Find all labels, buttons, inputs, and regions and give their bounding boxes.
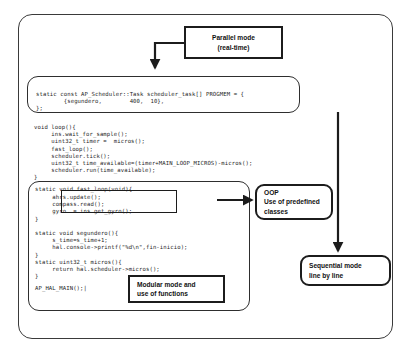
oop-line-3: classes [257,207,331,217]
oop-line-2: Use of predefined [257,197,331,207]
sequential-mode-line-1: Sequential mode [302,261,389,271]
parallel-mode-line-1: Parallel mode [186,33,281,43]
parallel-mode-line-2: (real-time) [186,43,281,53]
sequential-mode-line-2: line by line [302,271,389,281]
scheduler-task-code-box: static const AP_Scheduler::Task schedule… [27,76,300,113]
fast-loop-close-brace: } [35,216,38,223]
sequential-mode-callout: Sequential mode line by line [300,255,391,286]
parallel-mode-callout: Parallel mode (real-time) [184,26,283,59]
void-loop-code-text: void loop(){ ins.wait_for_sample(); uint… [34,124,304,182]
oop-callout: OOP Use of predefined classes [255,184,333,220]
ap-hal-main-macro-text: AP_HAL_MAIN();| [35,285,87,292]
modular-mode-line-2: use of functions [130,289,223,299]
segundero-code-text: static void segundero(){ s_time=s_time+1… [35,230,188,259]
fast-loop-body-highlight [61,190,177,213]
modular-mode-callout: Modular mode and use of functions [128,275,225,303]
modular-mode-line-1: Modular mode and [130,280,223,290]
void-loop-code-region: void loop(){ ins.wait_for_sample(); uint… [34,124,304,184]
oop-line-1: OOP [257,188,331,198]
diagram-canvas: Parallel mode (real-time) static const A… [0,0,411,358]
scheduler-task-code-text: static const AP_Scheduler::Task schedule… [36,91,244,113]
